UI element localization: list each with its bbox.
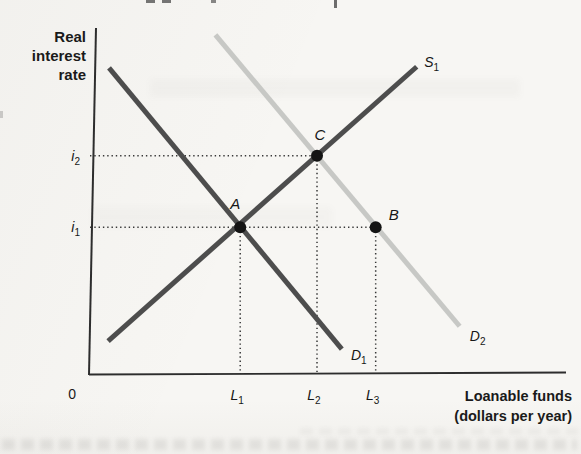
point-label-C: C (315, 125, 326, 142)
curve-D2 (215, 35, 459, 326)
point-A (234, 221, 246, 233)
x-tick-label-L3: L3 (366, 387, 379, 403)
y-tick-label-i1: i1 (71, 219, 80, 235)
x-axis (89, 373, 566, 375)
y-axis-title: Real interest rate (20, 27, 86, 84)
origin-label: 0 (56, 386, 76, 402)
point-label-B: B (389, 206, 399, 223)
point-B (370, 221, 382, 233)
curve-label-D2: D2 (470, 328, 486, 344)
point-label-A: A (230, 195, 240, 212)
x-tick-label-L1: L1 (231, 387, 244, 403)
curve-label-D1: D1 (351, 347, 367, 363)
textbook-page: Real interest rate Loanable funds (dolla… (0, 0, 581, 454)
loanable-funds-figure: Real interest rate Loanable funds (dolla… (0, 0, 581, 454)
x-axis-title: Loanable funds (dollars per year) (454, 386, 572, 426)
curve-label-S1: S1 (424, 54, 439, 70)
x-tick-label-L2: L2 (307, 387, 320, 403)
curve-S1 (108, 67, 417, 341)
y-axis (89, 28, 96, 375)
point-C (311, 150, 323, 162)
y-tick-label-i2: i2 (71, 148, 80, 164)
